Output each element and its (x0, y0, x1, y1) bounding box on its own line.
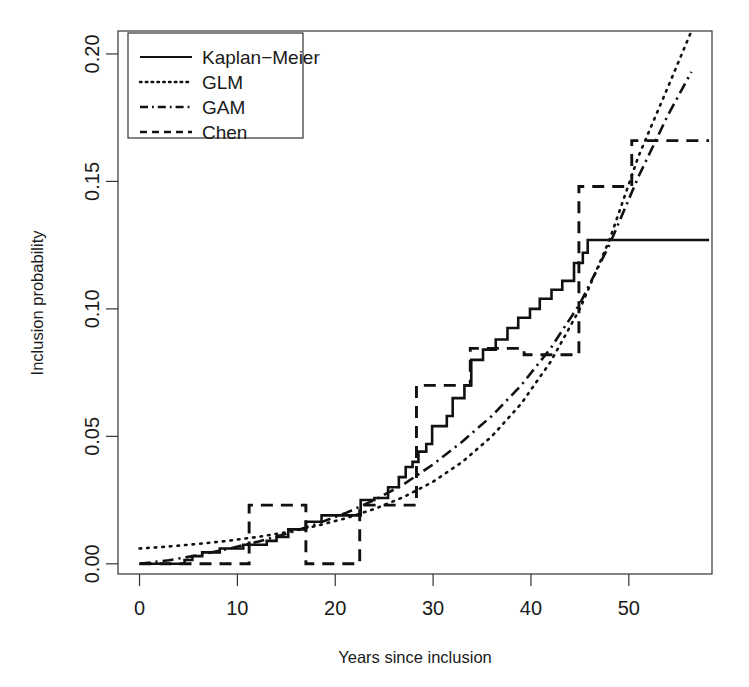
legend-label-dashdot: GAM (202, 97, 245, 118)
y-axis-ticks: 0.000.050.100.150.20 (81, 34, 118, 583)
y-tick-label: 0.10 (81, 289, 103, 328)
x-axis-ticks: 01020304050 (134, 574, 640, 619)
y-tick-label: 0.05 (81, 417, 103, 456)
inclusion-probability-chart: 01020304050 0.000.050.100.150.20 Years s… (0, 0, 749, 687)
x-axis-title: Years since inclusion (338, 648, 491, 666)
series-kaplan-meier (140, 240, 710, 564)
legend: Kaplan−MeierGLMGAMChen (128, 33, 320, 143)
y-tick-label: 0.20 (81, 34, 103, 73)
legend-label-dotted: GLM (202, 72, 243, 93)
x-tick-label: 20 (324, 597, 346, 619)
x-tick-label: 0 (134, 597, 145, 619)
x-tick-label: 40 (520, 597, 542, 619)
legend-label-dashed: Chen (202, 122, 247, 143)
x-tick-label: 50 (618, 597, 640, 619)
y-tick-label: 0.00 (81, 544, 103, 583)
x-tick-label: 10 (226, 597, 248, 619)
y-tick-label: 0.15 (81, 162, 103, 201)
x-tick-label: 30 (422, 597, 444, 619)
figure-container: 01020304050 0.000.050.100.150.20 Years s… (0, 0, 749, 687)
legend-label-solid: Kaplan−Meier (202, 47, 320, 68)
series-chen (140, 141, 710, 564)
y-axis-title: Inclusion probability (28, 230, 46, 376)
